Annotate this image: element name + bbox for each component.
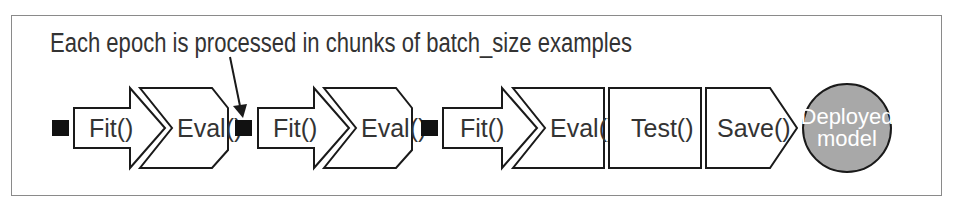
annotation-arrow-icon <box>230 57 247 118</box>
batch-marker <box>421 120 438 136</box>
svg-text:model: model <box>817 126 877 151</box>
batch-marker <box>235 120 252 136</box>
svg-text:Eval(): Eval() <box>177 114 242 142</box>
svg-text:Eval(): Eval() <box>361 114 426 142</box>
svg-text:Save(): Save() <box>717 114 791 142</box>
save-step: Save() <box>706 88 797 168</box>
deployed-model-node: Deployed model <box>801 84 894 172</box>
training-pipeline-diagram: Each epoch is processed in chunks of bat… <box>0 0 953 203</box>
svg-text:Eval(): Eval() <box>550 114 615 142</box>
test-step: Test() <box>609 88 701 168</box>
svg-text:Test(): Test() <box>631 114 694 142</box>
batch-marker <box>52 120 69 136</box>
annotation-text: Each epoch is processed in chunks of bat… <box>50 28 632 58</box>
svg-text:Fit(): Fit() <box>89 114 133 142</box>
svg-text:Fit(): Fit() <box>273 114 317 142</box>
svg-text:Fit(): Fit() <box>460 114 504 142</box>
